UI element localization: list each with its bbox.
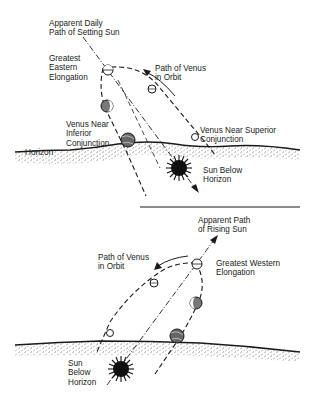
- top-sun-path-arrow: [191, 184, 199, 193]
- top-venus-greatest-elongation: [103, 65, 113, 75]
- bottom-orbit-path-label: Path of Venus in Orbit: [98, 253, 149, 272]
- top-sun-path-label: Apparent Daily Path of Setting Sun: [49, 19, 120, 38]
- top-sun-icon: [166, 155, 192, 181]
- bottom-sun-below-horizon-label: Sun Below Horizon: [68, 359, 96, 387]
- top-venus-inferior-conjunction: [121, 133, 135, 147]
- bottom-venus-low: [107, 330, 114, 337]
- top-orbit-direction-arrow: [143, 69, 151, 76]
- top-sun-below-horizon-label: Sun Below Horizon: [203, 166, 242, 185]
- bottom-sun-path-arrow: [210, 235, 218, 244]
- bottom-sun-path-label: Apparent Path of Rising Sun: [198, 216, 250, 235]
- top-horizon-label: Horizon: [25, 148, 53, 157]
- top-greatest-eastern-elongation-label: Greatest Eastern Elongation: [49, 54, 88, 82]
- bottom-ground: [15, 341, 300, 362]
- top-orbit-path-label: Path of Venus in Orbit: [155, 64, 206, 83]
- bottom-venus-descending-dashed: [155, 263, 202, 374]
- venus-phases-diagram: [0, 0, 315, 397]
- bottom-venus-inferior-conjunction: [170, 329, 184, 343]
- top-venus-crescent-1: [101, 100, 113, 112]
- bottom-greatest-western-elongation-label: Greatest Western Elongation: [216, 259, 280, 278]
- bottom-venus-crescent-1: [190, 297, 202, 309]
- top-inferior-conjunction-label: Venus Near Inferior Conjunction: [66, 120, 109, 148]
- bottom-orbit-direction-arrow: [154, 262, 162, 270]
- top-venus-superior-conjunction: [192, 134, 199, 141]
- bottom-venus-greatest-elongation: [192, 259, 202, 269]
- top-venus-orbit-mid: [148, 85, 156, 93]
- bottom-venus-orbit-mid: [150, 279, 158, 287]
- bottom-orbit-direction-arc: [158, 256, 188, 266]
- bottom-panel: [15, 235, 300, 385]
- top-superior-conjunction-label: Venus Near Superior Conjunction: [200, 126, 276, 145]
